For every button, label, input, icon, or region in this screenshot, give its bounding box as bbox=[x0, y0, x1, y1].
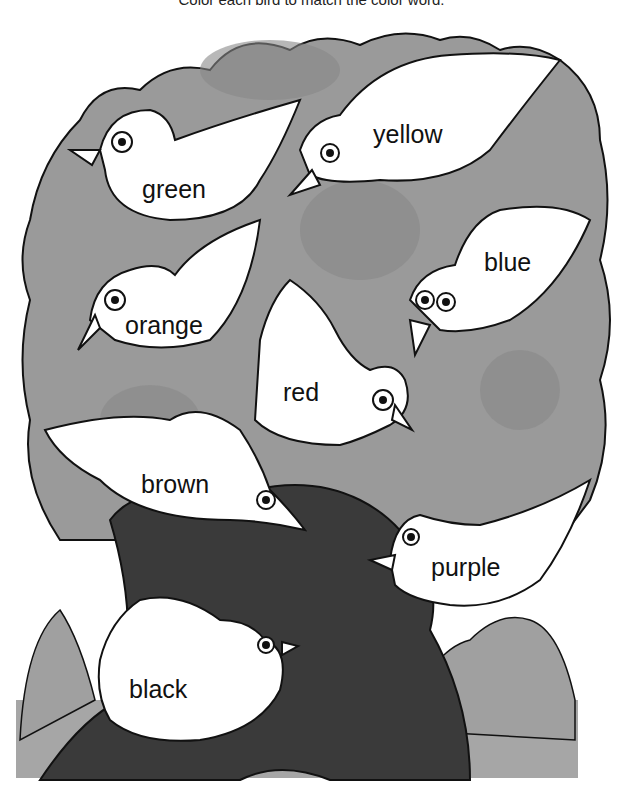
bird-label-green: green bbox=[142, 177, 206, 202]
bird-label-purple: purple bbox=[431, 555, 501, 580]
bird-label-blue: blue bbox=[484, 250, 531, 275]
bird-label-black: black bbox=[129, 677, 187, 702]
bird-label-brown: brown bbox=[141, 472, 209, 497]
bird-label-red: red bbox=[283, 380, 319, 405]
bird-label-yellow: yellow bbox=[373, 122, 442, 147]
bird-label-orange: orange bbox=[125, 313, 203, 338]
